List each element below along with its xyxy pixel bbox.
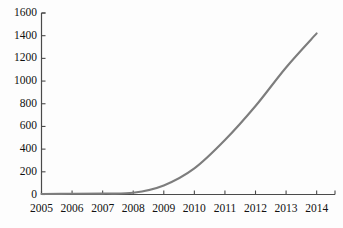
x-axis-tick-label: 2008: [116, 203, 150, 215]
x-axis-tick-label: 2010: [177, 203, 211, 215]
x-axis-tick-label: 2006: [55, 203, 89, 215]
y-axis-tick-label: 1200: [0, 52, 37, 64]
y-axis-tick-label: 0: [0, 189, 37, 201]
x-axis-tick-label: 2012: [239, 203, 273, 215]
y-axis-tick-label: 1600: [0, 7, 37, 19]
y-axis-tick-label: 600: [0, 120, 37, 132]
axis-lines: [41, 13, 335, 195]
data-series-group: [42, 33, 317, 194]
plot-area: [0, 0, 343, 228]
x-axis-tick-label: 2007: [86, 203, 120, 215]
x-axis-tick-label: 2014: [300, 203, 334, 215]
chart-container: 02004006008001000120014001600 2005200620…: [0, 0, 343, 228]
y-axis-tick-label: 800: [0, 98, 37, 110]
x-axis-tick-label: 2013: [269, 203, 303, 215]
x-axis-tick-label: 2005: [25, 203, 59, 215]
y-axis-tick-label: 200: [0, 166, 37, 178]
y-axis-tick-label: 1400: [0, 30, 37, 42]
x-axis-tick-label: 2009: [147, 203, 181, 215]
y-axis-tick-label: 1000: [0, 75, 37, 87]
data-series-line: [42, 33, 317, 194]
x-axis-tick-label: 2011: [208, 203, 242, 215]
y-axis-tick-label: 400: [0, 143, 37, 155]
